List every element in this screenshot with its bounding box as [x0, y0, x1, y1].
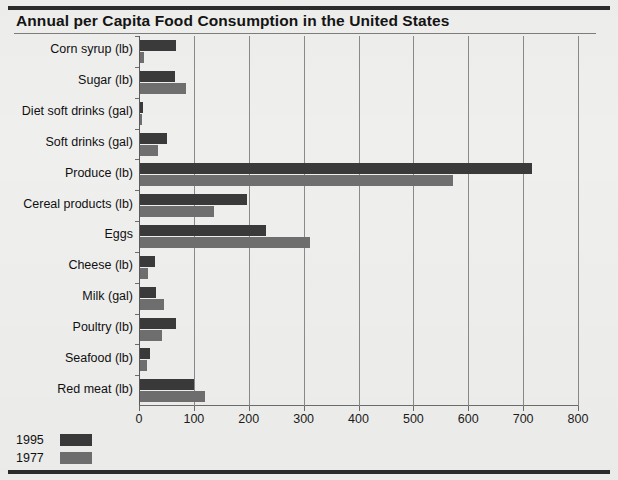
bar-1995-cheese-lb — [140, 256, 155, 267]
chart-title: Annual per Capita Food Consumption in th… — [16, 12, 449, 30]
x-axis-tick — [194, 406, 195, 411]
x-axis-tick-label: 700 — [513, 412, 534, 426]
bar-1977-produce-lb — [140, 175, 453, 186]
legend-swatch — [60, 434, 92, 446]
x-axis-tick — [359, 406, 360, 411]
x-axis-tick-label: 200 — [238, 412, 259, 426]
category-tick — [135, 159, 139, 160]
bar-1977-soft-drinks-gal — [140, 145, 158, 156]
bar-1995-eggs — [140, 225, 266, 236]
category-tick — [135, 375, 139, 376]
gridline — [359, 36, 360, 406]
x-axis-tick — [578, 406, 579, 411]
category-label: Cheese (lb) — [3, 258, 133, 272]
category-label: Red meat (lb) — [3, 382, 133, 396]
bar-1995-soft-drinks-gal — [140, 133, 167, 144]
title-underline — [14, 33, 596, 34]
category-label: Poultry (lb) — [3, 320, 133, 334]
category-tick — [135, 283, 139, 284]
plot-area — [139, 36, 578, 406]
top-rule — [8, 6, 610, 10]
legend-swatch — [60, 452, 92, 464]
category-tick — [135, 36, 139, 37]
legend-label: 1995 — [16, 433, 44, 447]
bar-1995-red-meat-lb — [140, 379, 194, 390]
gridline — [413, 36, 414, 406]
bar-1977-diet-soft-drinks-gal — [140, 114, 142, 125]
category-tick — [135, 314, 139, 315]
x-axis-tick-label: 500 — [403, 412, 424, 426]
bar-1995-cereal-products-lb — [140, 194, 247, 205]
category-tick — [135, 129, 139, 130]
legend-label: 1977 — [16, 451, 44, 465]
category-label: Sugar (lb) — [3, 73, 133, 87]
bar-1977-red-meat-lb — [140, 391, 205, 402]
bar-1977-cheese-lb — [140, 268, 148, 279]
category-tick — [135, 190, 139, 191]
bar-1977-cereal-products-lb — [140, 206, 214, 217]
gridline — [578, 36, 579, 406]
gridline — [468, 36, 469, 406]
bar-1977-sugar-lb — [140, 83, 186, 94]
bar-1977-corn-syrup-lb — [140, 52, 144, 63]
x-axis-tick — [249, 406, 250, 411]
gridline — [249, 36, 250, 406]
bar-1995-produce-lb — [140, 163, 532, 174]
x-axis-tick-label: 400 — [348, 412, 369, 426]
chart-legend: 19951977 — [16, 432, 216, 468]
category-tick — [135, 67, 139, 68]
category-axis-labels: Corn syrup (lb)Sugar (lb)Diet soft drink… — [0, 36, 133, 406]
bar-1995-poultry-lb — [140, 318, 176, 329]
bar-1977-eggs — [140, 237, 310, 248]
category-label: Produce (lb) — [3, 166, 133, 180]
x-axis-tick — [413, 406, 414, 411]
category-label: Seafood (lb) — [3, 351, 133, 365]
x-axis-tick-label: 0 — [136, 412, 143, 426]
category-label: Cereal products (lb) — [3, 197, 133, 211]
bar-1977-seafood-lb — [140, 360, 147, 371]
category-label: Corn syrup (lb) — [3, 42, 133, 56]
x-axis-tick — [523, 406, 524, 411]
x-axis-tick — [468, 406, 469, 411]
category-tick — [135, 98, 139, 99]
x-axis-tick-label: 600 — [458, 412, 479, 426]
x-axis-tick-label: 300 — [293, 412, 314, 426]
x-axis-tick — [304, 406, 305, 411]
bar-1995-corn-syrup-lb — [140, 40, 176, 51]
x-axis-tick-label: 800 — [568, 412, 589, 426]
gridline — [194, 36, 195, 406]
category-label: Soft drinks (gal) — [3, 135, 133, 149]
bar-1977-milk-gal — [140, 299, 164, 310]
bar-1995-milk-gal — [140, 287, 156, 298]
chart-figure: Annual per Capita Food Consumption in th… — [0, 0, 618, 480]
x-axis-tick-label: 100 — [183, 412, 204, 426]
category-label: Diet soft drinks (gal) — [3, 104, 133, 118]
category-label: Milk (gal) — [3, 289, 133, 303]
category-tick — [135, 252, 139, 253]
legend-item: 1995 — [16, 432, 216, 450]
legend-item: 1977 — [16, 450, 216, 468]
gridline — [523, 36, 524, 406]
category-tick — [135, 221, 139, 222]
bar-1995-sugar-lb — [140, 71, 175, 82]
category-tick — [135, 344, 139, 345]
bar-1995-diet-soft-drinks-gal — [140, 102, 143, 113]
bottom-rule — [8, 470, 610, 474]
bar-1977-poultry-lb — [140, 330, 162, 341]
gridline — [304, 36, 305, 406]
x-axis-tick — [139, 406, 140, 411]
category-label: Eggs — [3, 227, 133, 241]
bar-1995-seafood-lb — [140, 348, 150, 359]
